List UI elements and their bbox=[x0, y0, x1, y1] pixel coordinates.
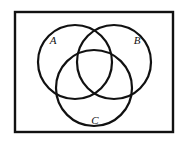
set-label-b: B bbox=[134, 34, 141, 46]
set-label-c: C bbox=[91, 114, 99, 126]
set-label-a: A bbox=[49, 34, 57, 46]
venn-diagram-canvas: A B C bbox=[0, 0, 188, 143]
venn-diagram-figure: A B C bbox=[0, 0, 188, 143]
